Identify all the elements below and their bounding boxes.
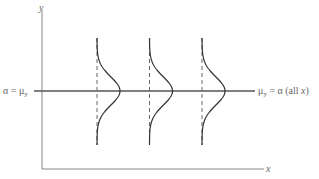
regression-diagram: y x α = μy μy = α (all x): [0, 0, 319, 179]
left-mean-label-main: α = μ: [3, 85, 24, 96]
right-label-suffix: = α (all: [267, 85, 301, 97]
right-label-close: ): [306, 85, 309, 97]
y-axis-label: y: [38, 2, 44, 13]
right-mean-label: μy = α (all x): [258, 85, 309, 98]
left-mean-label: α = μy: [3, 85, 28, 98]
x-axis-label: x: [265, 163, 271, 174]
left-mean-label-sub: y: [24, 90, 28, 98]
